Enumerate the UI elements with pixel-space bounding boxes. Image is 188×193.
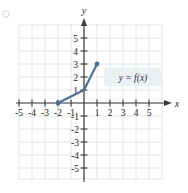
corner-mark xyxy=(3,11,9,17)
x-tick-label: -4 xyxy=(28,108,36,118)
y-tick-label: -5 xyxy=(71,164,79,174)
axis-arrowheads xyxy=(81,18,172,106)
y-tick-label: 4 xyxy=(73,47,78,57)
coordinate-plane: -5 -4 -3 -2 -1 1 2 3 4 5 1 2 3 4 5 -1 -2… xyxy=(0,0,188,193)
axis-lines xyxy=(16,22,167,182)
x-tick-label: -5 xyxy=(15,108,23,118)
x-axis-label: x xyxy=(174,98,180,109)
curve-label: y = f(x) xyxy=(118,73,148,84)
x-tick-label: 2 xyxy=(108,108,113,118)
endpoint-dot-right xyxy=(95,62,100,67)
x-tick-label: 4 xyxy=(134,108,139,118)
y-tick-labels-negative: -1 -2 -3 -4 -5 xyxy=(71,112,79,174)
x-tick-labels-positive: 1 2 3 4 5 xyxy=(95,108,152,118)
x-tick-label: 5 xyxy=(147,108,152,118)
y-tick-label: -2 xyxy=(71,125,79,135)
y-tick-labels-positive: 1 2 3 4 5 xyxy=(73,34,78,96)
y-axis-label: y xyxy=(81,5,87,16)
endpoint-dot-left xyxy=(56,101,61,106)
grid-lines xyxy=(19,24,162,180)
x-tick-labels-negative: -5 -4 -3 -2 -1 xyxy=(15,108,75,118)
x-tick-label: 3 xyxy=(121,108,126,118)
function-curve xyxy=(58,64,97,103)
x-tick-label: 1 xyxy=(95,108,100,118)
y-tick-label: -4 xyxy=(71,151,79,161)
x-tick-label: -3 xyxy=(41,108,49,118)
y-tick-label: 2 xyxy=(73,73,78,83)
y-tick-label: 5 xyxy=(73,34,78,44)
y-tick-label: -3 xyxy=(71,138,79,148)
y-tick-label: 3 xyxy=(73,60,78,70)
graph-figure: -5 -4 -3 -2 -1 1 2 3 4 5 1 2 3 4 5 -1 -2… xyxy=(0,0,188,193)
y-tick-label: -1 xyxy=(71,112,79,122)
x-tick-label: -2 xyxy=(54,108,62,118)
